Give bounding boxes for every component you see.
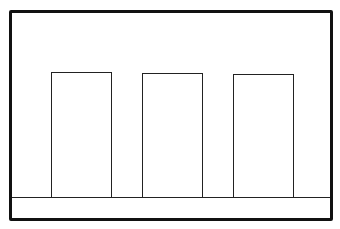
- bar-2: [142, 73, 203, 197]
- baseline: [12, 197, 330, 198]
- bar-1: [51, 72, 112, 197]
- bar-3: [233, 74, 294, 197]
